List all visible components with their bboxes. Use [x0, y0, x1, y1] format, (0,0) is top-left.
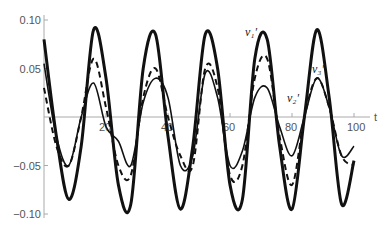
line-chart: 204060801000.100.05−0.05−0.10 t v₁′ v₃′ … — [0, 0, 389, 232]
svg-text:0.05: 0.05 — [20, 63, 41, 75]
svg-text:−0.10: −0.10 — [13, 208, 41, 220]
label-v3: v₃′ — [312, 62, 324, 76]
x-axis-label: t — [374, 111, 377, 123]
label-v1: v₁′ — [245, 25, 257, 39]
label-v2: v₂′ — [287, 91, 299, 105]
svg-text:80: 80 — [285, 121, 297, 133]
svg-text:100: 100 — [347, 121, 365, 133]
svg-text:−0.05: −0.05 — [13, 160, 41, 172]
svg-text:0.10: 0.10 — [20, 14, 41, 26]
curves — [44, 27, 354, 212]
